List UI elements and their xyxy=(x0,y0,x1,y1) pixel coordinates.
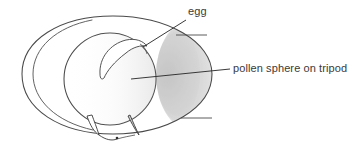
pollen-sphere-shading xyxy=(64,33,156,125)
tripod-foot-point xyxy=(116,137,119,140)
label-pollen-sphere-on-tripod: pollen sphere on tripod xyxy=(233,62,347,74)
diagram-canvas: egg pollen sphere on tripod xyxy=(0,0,354,148)
tripod-foot-right xyxy=(117,135,135,139)
ovule-diagram-drawing xyxy=(0,0,354,148)
label-egg: egg xyxy=(188,5,207,17)
tripod-foot-center xyxy=(99,135,117,140)
